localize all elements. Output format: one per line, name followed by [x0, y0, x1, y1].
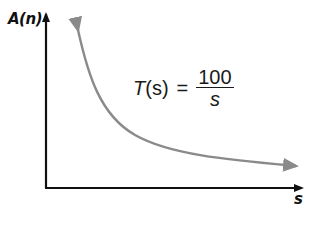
y-axis-label: A(n): [8, 10, 42, 28]
graph-svg: [0, 0, 319, 229]
fraction-numerator: 100: [196, 67, 233, 88]
equation-lhs: T(s): [133, 77, 169, 100]
fraction: 100 s: [196, 67, 233, 110]
curve-equation: T(s) = 100 s: [133, 67, 234, 110]
function-arg: (s): [145, 77, 168, 99]
x-axis-label: s: [294, 190, 303, 208]
function-name: T: [133, 77, 145, 99]
diagram-canvas: A(n) s T(s) = 100 s: [0, 0, 319, 229]
equals-sign: =: [177, 77, 189, 100]
fraction-denominator: s: [210, 88, 220, 110]
